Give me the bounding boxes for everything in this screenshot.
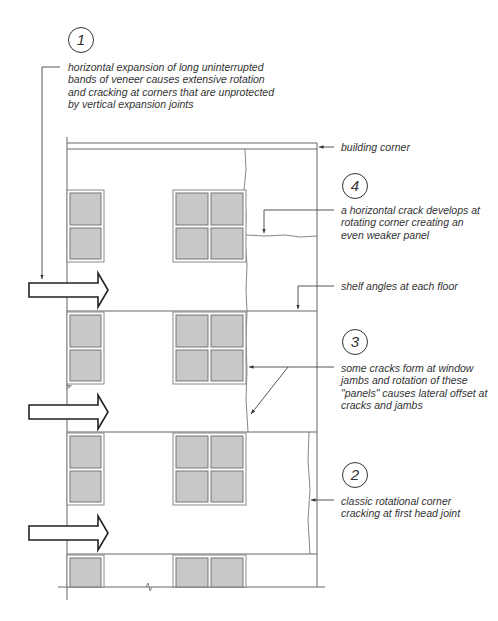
window-narrow <box>67 190 104 262</box>
note-line: shelf angles at each floor <box>341 280 458 292</box>
note-line: classic rotational corner <box>341 495 460 507</box>
note-line: bands of veneer causes extensive rotatio… <box>68 73 274 85</box>
shelf-angles-label: shelf angles at each floor <box>341 280 458 292</box>
expansion-arrow-icon <box>29 395 108 429</box>
callout-number-1: 1 <box>68 27 94 53</box>
window-wide <box>173 555 246 587</box>
callout-4-text: a horizontal crack develops at rotating … <box>341 204 480 241</box>
note-line: jambs and rotation of these <box>341 374 487 386</box>
note-line: cracking at first head joint <box>341 507 460 519</box>
window-narrow <box>67 555 104 587</box>
window-narrow <box>67 433 104 505</box>
expansion-arrow-icon <box>29 273 108 307</box>
callout-2-text: classic rotational corner cracking at fi… <box>341 495 460 520</box>
window-wide <box>173 312 246 384</box>
callout-number-4: 4 <box>342 173 368 199</box>
note-line: a horizontal crack develops at <box>341 204 480 216</box>
window-narrow <box>67 312 104 384</box>
note-line: cracks and jambs <box>341 399 487 411</box>
note-line: some cracks form at window <box>341 362 487 374</box>
note-line: and cracking at corners that are unprote… <box>68 86 274 98</box>
callout-3-text: some cracks form at window jambs and rot… <box>341 362 487 412</box>
elevation-diagram: 1 4 3 2 horizontal expansion of long uni… <box>0 0 498 621</box>
building-corner-label: building corner <box>341 141 410 153</box>
note-line: by vertical expansion joints <box>68 98 274 110</box>
callout-number-2: 2 <box>342 462 368 488</box>
note-line: rotating corner creating an <box>341 216 480 228</box>
window-wide <box>173 433 246 505</box>
callout-1-text: horizontal expansion of long uninterrupt… <box>68 61 274 111</box>
expansion-arrow-icon <box>29 516 108 550</box>
callout-number-3: 3 <box>342 329 368 355</box>
note-line: building corner <box>341 141 410 153</box>
window-wide <box>173 190 246 262</box>
note-line: "panels" causes lateral offset at <box>341 387 487 399</box>
note-line: horizontal expansion of long uninterrupt… <box>68 61 274 73</box>
note-line: even weaker panel <box>341 229 480 241</box>
